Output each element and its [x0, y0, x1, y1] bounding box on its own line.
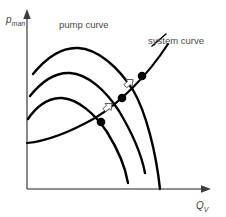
- x-axis-arrowhead: [201, 185, 211, 192]
- pump-system-curve-chart: pman QV pump curve syst: [0, 0, 226, 217]
- system-curve-label: system curve: [148, 35, 204, 46]
- y-axis-arrowhead: [23, 9, 30, 19]
- operating-point-high: [138, 72, 147, 81]
- x-axis-label: QV: [196, 200, 210, 213]
- y-axis-label: pman: [5, 14, 25, 27]
- pump-curve-label: pump curve: [59, 19, 109, 30]
- x-axis-label-subscript: V: [204, 206, 210, 213]
- operating-point-mid: [118, 94, 127, 103]
- y-axis-label-subscript: man: [12, 20, 26, 27]
- figure-container: pman QV pump curve syst: [0, 0, 226, 217]
- operating-point-low: [97, 118, 106, 127]
